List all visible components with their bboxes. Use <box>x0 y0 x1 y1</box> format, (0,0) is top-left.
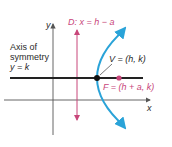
x-axis-label: x <box>147 103 152 113</box>
directrix-label: D: x = h − a <box>68 17 115 27</box>
focus-point <box>116 75 121 80</box>
vertex-pointer <box>100 64 112 75</box>
vertex-point <box>94 75 100 81</box>
focus-label: F = (h + a, k) <box>103 82 154 92</box>
y-axis-label: y <box>46 20 51 30</box>
axis-label-line1: Axis of <box>10 42 37 52</box>
vertex-label: V = (h, k) <box>109 54 146 64</box>
axis-label-line2: symmetry <box>10 52 49 62</box>
axis-label-line3: y = k <box>10 62 29 72</box>
